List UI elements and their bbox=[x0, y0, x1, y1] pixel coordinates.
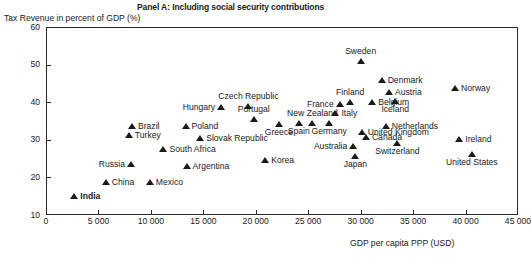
data-point-label: New Zealand bbox=[287, 109, 338, 118]
data-point-marker[interactable] bbox=[125, 132, 133, 138]
data-point-label: Slovak Republic bbox=[206, 133, 268, 142]
data-point-label: France bbox=[307, 100, 334, 109]
data-point-marker[interactable] bbox=[336, 101, 344, 107]
data-point-label: Ireland bbox=[465, 135, 491, 144]
y-tick-label: 50 bbox=[2, 60, 40, 69]
y-tick-label: 10 bbox=[2, 211, 40, 220]
y-tick-label: 20 bbox=[2, 173, 40, 182]
data-point-marker[interactable] bbox=[159, 146, 167, 152]
data-point-marker[interactable] bbox=[261, 157, 269, 163]
data-point-label: Hungary bbox=[183, 102, 215, 111]
data-point-marker[interactable] bbox=[250, 116, 258, 122]
data-point-marker[interactable] bbox=[385, 89, 393, 95]
data-point-marker[interactable] bbox=[182, 123, 190, 129]
data-point-label: Iceland bbox=[381, 105, 409, 114]
x-tick-label: 45 000 bbox=[505, 217, 531, 226]
data-point-label: South Africa bbox=[169, 145, 215, 154]
data-point-marker[interactable] bbox=[102, 179, 110, 185]
data-point-label: Brazil bbox=[138, 121, 160, 130]
data-point-marker[interactable] bbox=[382, 123, 390, 129]
y-axis-title: Tax Revenue in percent of GDP (%) bbox=[4, 13, 140, 23]
data-point-marker[interactable] bbox=[127, 161, 135, 167]
x-axis-title: GDP per capita PPP (USD) bbox=[350, 238, 454, 248]
data-point-marker[interactable] bbox=[331, 110, 339, 116]
data-point-label: China bbox=[112, 177, 134, 186]
data-point-marker[interactable] bbox=[455, 136, 463, 142]
data-point-marker[interactable] bbox=[368, 99, 376, 105]
data-point-marker[interactable] bbox=[357, 58, 365, 64]
data-point-label: Netherlands bbox=[392, 122, 438, 131]
data-point-label: Australia bbox=[314, 142, 347, 151]
data-point-marker[interactable] bbox=[217, 104, 225, 110]
x-tick-label: 15 000 bbox=[190, 217, 216, 226]
data-point-label: Portugal bbox=[238, 105, 270, 114]
data-point-label: Spain bbox=[288, 127, 310, 136]
data-point-label: Austria bbox=[395, 88, 422, 97]
y-tick-label: 30 bbox=[2, 135, 40, 144]
data-point-label: Switzerland bbox=[375, 147, 419, 156]
data-point-marker[interactable] bbox=[451, 85, 459, 91]
y-tick-label: 40 bbox=[2, 98, 40, 107]
data-point-label: Norway bbox=[461, 83, 490, 92]
data-point-marker[interactable] bbox=[378, 77, 386, 83]
x-tick-label: 20 000 bbox=[243, 217, 269, 226]
x-tick-label: 35 000 bbox=[400, 217, 426, 226]
data-point-label: Finland bbox=[336, 88, 364, 97]
data-point-label: Poland bbox=[192, 121, 219, 130]
x-tick-label: 5 000 bbox=[88, 217, 110, 226]
x-tick-label: 25 000 bbox=[295, 217, 321, 226]
data-point-label: Russia bbox=[99, 160, 125, 169]
data-point-marker[interactable] bbox=[346, 99, 354, 105]
data-point-marker[interactable] bbox=[362, 134, 370, 140]
x-tick-label: 10 000 bbox=[138, 217, 164, 226]
data-point-label: Mexico bbox=[156, 177, 183, 186]
data-point-label: Italy bbox=[341, 109, 357, 118]
data-point-label: Turkey bbox=[135, 130, 161, 139]
data-point-label: Denmark bbox=[388, 75, 423, 84]
x-tick-label: 0 bbox=[44, 217, 49, 226]
data-point-marker[interactable] bbox=[146, 179, 154, 185]
data-point-label: Korea bbox=[271, 156, 294, 165]
panel-title: Panel A: Including social security contr… bbox=[137, 2, 324, 12]
data-point-label: Germany bbox=[312, 127, 347, 136]
x-tick-label: 30 000 bbox=[348, 217, 374, 226]
data-point-marker[interactable] bbox=[183, 163, 191, 169]
data-point-label: Sweden bbox=[345, 47, 376, 56]
data-point-marker[interactable] bbox=[196, 135, 204, 141]
x-tick-label: 40 000 bbox=[452, 217, 478, 226]
data-point-marker[interactable] bbox=[349, 143, 357, 149]
data-point-label: India bbox=[80, 192, 100, 201]
data-point-label: Japan bbox=[344, 160, 367, 169]
data-point-marker[interactable] bbox=[128, 123, 136, 129]
data-point-marker[interactable] bbox=[70, 193, 78, 199]
y-tick-label: 60 bbox=[2, 23, 40, 32]
data-point-label: Argentina bbox=[193, 161, 230, 170]
data-point-label: United States bbox=[446, 158, 498, 167]
data-point-label: Czech Republic bbox=[218, 92, 278, 101]
